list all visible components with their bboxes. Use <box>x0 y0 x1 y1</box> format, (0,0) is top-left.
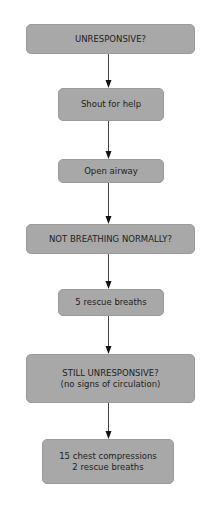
arrow-still-to-compressions <box>106 403 112 439</box>
node-label: Open airway <box>84 166 138 177</box>
node-unresponsive: UNRESPONSIVE? <box>26 24 195 54</box>
node-label-line-2: 2 rescue breaths <box>72 462 143 473</box>
node-shout-for-help: Shout for help <box>58 88 164 121</box>
node-label-line-1: 15 chest compressions <box>59 451 157 462</box>
node-still-unresponsive: STILL UNRESPONSIVE? (no signs of circula… <box>26 354 195 403</box>
arrow-rescue-to-still <box>106 316 112 354</box>
arrow-shout-to-airway <box>106 121 112 159</box>
node-label-line-2: (no signs of circulation) <box>61 379 161 390</box>
arrow-airway-to-breathing <box>106 183 112 224</box>
node-label: Shout for help <box>81 99 141 110</box>
arrow-breathing-to-rescue <box>106 254 112 289</box>
node-open-airway: Open airway <box>58 159 164 183</box>
node-not-breathing-normally: NOT BREATHING NORMALLY? <box>26 224 195 254</box>
node-label: 5 rescue breaths <box>75 297 146 308</box>
node-rescue-breaths: 5 rescue breaths <box>58 289 164 316</box>
node-label: UNRESPONSIVE? <box>75 34 146 45</box>
node-label: NOT BREATHING NORMALLY? <box>49 234 172 245</box>
node-chest-compressions: 15 chest compressions 2 rescue breaths <box>42 439 174 484</box>
arrow-unresponsive-to-shout <box>106 54 112 88</box>
node-label-line-1: STILL UNRESPONSIVE? <box>62 368 158 379</box>
